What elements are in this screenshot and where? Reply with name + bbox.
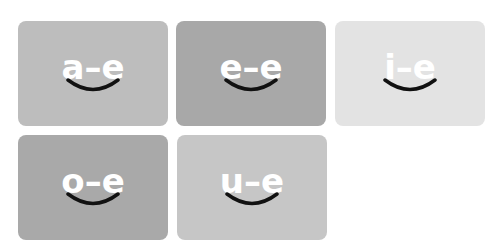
card-o-e[interactable]: o–e bbox=[18, 135, 168, 240]
card-a-e[interactable]: a–e bbox=[18, 21, 168, 126]
card-u-e[interactable]: u–e bbox=[177, 135, 327, 240]
smile-arc-icon bbox=[383, 77, 437, 93]
smile-arc-icon bbox=[66, 77, 120, 93]
card-i-e[interactable]: i–e bbox=[335, 21, 485, 126]
smile-arc-icon bbox=[224, 77, 278, 93]
card-e-e[interactable]: e–e bbox=[176, 21, 326, 126]
smile-arc-icon bbox=[66, 191, 120, 207]
smile-arc-icon bbox=[225, 191, 279, 207]
